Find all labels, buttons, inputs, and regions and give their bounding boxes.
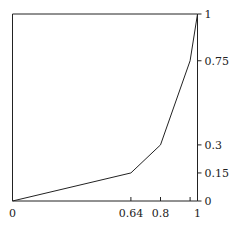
- y-tick-label: 1: [205, 8, 212, 21]
- x-tick-label: 0.64: [119, 207, 144, 220]
- x-axis-ticks: 00.640.81: [9, 197, 201, 220]
- y-tick-label: 0.75: [205, 55, 230, 68]
- plot-frame: [13, 14, 198, 201]
- lorenz-chart: 00.640.81 00.150.30.751: [0, 0, 238, 233]
- x-tick-label: 0.8: [152, 207, 170, 220]
- y-tick-label: 0: [205, 195, 212, 208]
- series-line: [13, 14, 198, 201]
- y-tick-label: 0.3: [205, 139, 223, 152]
- y-tick-label: 0.15: [205, 167, 230, 180]
- data-series: [13, 14, 198, 201]
- x-tick-label: 1: [194, 207, 201, 220]
- x-tick-label: 0: [9, 207, 16, 220]
- y-axis-ticks: 00.150.30.751: [198, 8, 230, 208]
